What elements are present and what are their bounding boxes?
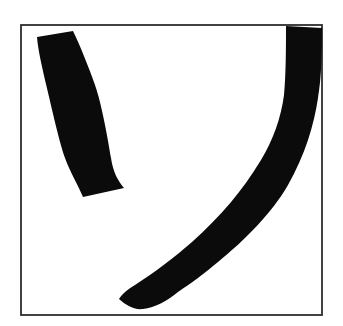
glyph-figure	[0, 0, 343, 326]
drawing-canvas	[0, 0, 343, 326]
